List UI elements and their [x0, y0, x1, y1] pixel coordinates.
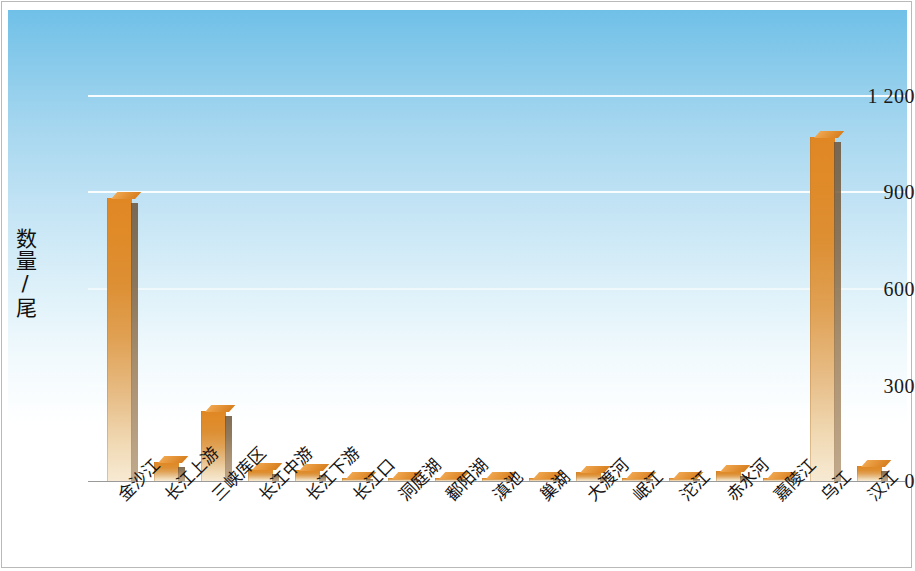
x-axis-labels: 金沙江长江上游三峡库区长江中游长江下游长江口洞庭湖鄱阳湖滇池巢湖大渡河岷江沱江赤…: [0, 482, 915, 571]
gridline-600: [88, 288, 905, 290]
ytick-label-900: 900: [841, 181, 915, 204]
gridline-300: [88, 385, 905, 387]
ytick-label-300: 300: [841, 375, 915, 398]
y-axis-title: 数量/尾: [10, 228, 40, 319]
ytick-label-1200: 1 200: [841, 85, 915, 108]
gridline-900: [88, 191, 905, 193]
plot-area: [8, 10, 907, 482]
ytick-label-600: 600: [841, 278, 915, 301]
gridline-1200: [88, 95, 905, 97]
chart-figure: 1 200 900 600 300 0 数量/尾 金沙江长江上游三峡库区长江中游…: [0, 0, 915, 571]
